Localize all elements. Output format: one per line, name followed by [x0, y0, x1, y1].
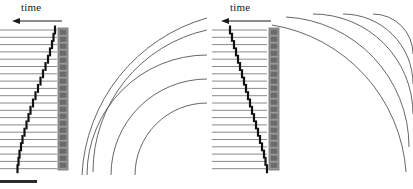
wavefront-arcs-right	[272, 14, 413, 172]
seismic-wavefront-figure: time	[0, 0, 413, 189]
arrival-dashes-right	[230, 26, 267, 174]
trace-lines-right	[212, 30, 267, 169]
wavefront-arcs-left	[82, 18, 207, 175]
arrival-dashes-left	[18, 26, 56, 174]
seismic-gather-left	[0, 0, 207, 189]
panel-right: time	[206, 0, 413, 189]
panel-left: time	[0, 0, 207, 189]
seismic-gather-right	[206, 0, 413, 189]
receiver-array-right	[269, 28, 279, 170]
trace-lines-left	[0, 30, 57, 169]
scale-bar	[0, 180, 37, 183]
receiver-array-left	[58, 28, 68, 170]
